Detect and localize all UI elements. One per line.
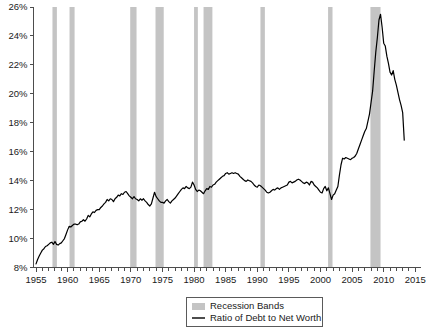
recession-band — [328, 7, 332, 268]
debt-to-net-worth-line-chart: 8%10%12%14%16%18%20%22%24%26% 1955196019… — [0, 0, 426, 334]
x-tick-label: 2005 — [342, 274, 363, 285]
recession-band — [156, 7, 164, 268]
legend-swatch-recession-bands — [192, 303, 205, 310]
recession-band — [70, 7, 75, 268]
recession-band — [260, 7, 264, 268]
y-tick-label: 10% — [8, 233, 28, 244]
recession-band — [194, 7, 198, 268]
recession-band — [52, 7, 56, 268]
x-tick-label: 1970 — [120, 274, 141, 285]
x-tick-label: 1990 — [247, 274, 268, 285]
x-tick-label: 2015 — [405, 274, 426, 285]
legend-label-recession-bands: Recession Bands — [210, 300, 284, 311]
y-tick-label: 24% — [8, 30, 28, 41]
x-tick-label: 1965 — [89, 274, 110, 285]
legend-label-ratio-debt-net-worth: Ratio of Debt to Net Worth — [210, 312, 321, 323]
x-tick-label: 1975 — [152, 274, 173, 285]
x-tick-label: 1980 — [183, 274, 204, 285]
recession-band — [370, 7, 380, 268]
y-tick-label: 18% — [8, 117, 28, 128]
y-tick-label: 16% — [8, 146, 28, 157]
y-tick-label: 12% — [8, 204, 28, 215]
y-tick-label: 26% — [8, 1, 28, 12]
chart-legend: Recession Bands Ratio of Debt to Net Wor… — [187, 298, 323, 327]
x-tick-label: 1955 — [25, 274, 46, 285]
y-tick-label: 22% — [8, 59, 28, 70]
recession-band — [130, 7, 136, 268]
chart-container: 8%10%12%14%16%18%20%22%24%26% 1955196019… — [0, 0, 426, 334]
x-tick-label: 1995 — [278, 274, 299, 285]
x-tick-label: 1985 — [215, 274, 236, 285]
x-tick-label: 1960 — [57, 274, 78, 285]
y-tick-label: 20% — [8, 88, 28, 99]
recession-band — [204, 7, 213, 268]
x-tick-label: 2010 — [373, 274, 394, 285]
y-tick-label: 8% — [14, 262, 28, 273]
x-tick-label: 2000 — [310, 274, 331, 285]
y-tick-label: 14% — [8, 175, 28, 186]
